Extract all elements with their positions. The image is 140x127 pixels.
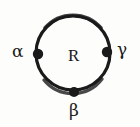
node-label-beta: β (69, 102, 79, 119)
node-gamma-dot (102, 47, 112, 57)
node-label-alpha: α (12, 43, 23, 60)
region-label: R (68, 47, 80, 64)
node-beta-dot (69, 87, 79, 97)
node-alpha-dot (33, 49, 43, 59)
region-boundary-figure: α γ β R (0, 0, 140, 127)
node-label-gamma: γ (117, 41, 127, 58)
